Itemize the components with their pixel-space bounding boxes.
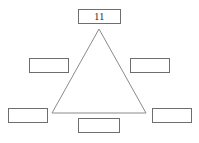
box-bottom-right[interactable] <box>152 108 192 123</box>
box-left-middle[interactable] <box>29 58 69 73</box>
box-bottom-left[interactable] <box>8 108 48 123</box>
box-right-middle[interactable] <box>130 58 170 73</box>
box-top-value: 11 <box>94 12 105 22</box>
box-bottom-center[interactable] <box>78 118 120 133</box>
worksheet-canvas: 11 <box>0 0 199 143</box>
box-top[interactable]: 11 <box>78 9 121 24</box>
